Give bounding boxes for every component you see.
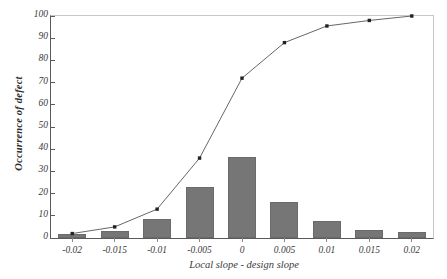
y-tick-mark — [51, 104, 55, 105]
x-tick-label: -0.015 — [102, 245, 127, 255]
x-tick-mark — [369, 238, 370, 242]
bar — [101, 231, 129, 238]
x-tick-mark — [284, 238, 285, 242]
curve-marker — [113, 225, 116, 228]
bar — [270, 202, 298, 238]
curve-marker — [325, 24, 328, 27]
x-tick-mark — [242, 238, 243, 242]
curve-marker — [368, 19, 371, 22]
x-axis-title: Local slope - design slope — [50, 259, 438, 270]
x-tick-mark — [326, 238, 327, 242]
x-tick-mark — [199, 238, 200, 242]
y-tick-mark — [51, 149, 55, 150]
y-tick-label: 80 — [39, 53, 49, 63]
x-tick-mark — [411, 238, 412, 242]
y-axis-title: Occurrence of defect — [13, 44, 24, 204]
curve-marker — [198, 156, 201, 159]
y-tick-mark — [51, 193, 55, 194]
x-tick-mark — [72, 238, 73, 242]
bar — [58, 234, 86, 238]
y-tick-label: 10 — [39, 209, 49, 219]
y-tick-label: 20 — [39, 187, 49, 197]
y-tick-mark — [51, 215, 55, 216]
x-tick-mark — [114, 238, 115, 242]
x-tick-mark — [157, 238, 158, 242]
bar — [186, 187, 214, 238]
curve-marker — [410, 14, 413, 17]
y-tick-label: 60 — [39, 98, 49, 108]
x-tick-label: 0.015 — [359, 245, 380, 255]
chart-figure: Occurrence of defect 0102030405060708090… — [0, 0, 447, 279]
x-tick-label: 0.01 — [319, 245, 336, 255]
y-tick-label: 90 — [39, 31, 49, 41]
curve-marker — [283, 41, 286, 44]
y-tick-mark — [51, 38, 55, 39]
y-tick-label: 50 — [39, 120, 49, 130]
y-tick-mark — [51, 16, 55, 17]
x-tick-label: 0.005 — [274, 245, 295, 255]
x-tick-label: -0.005 — [187, 245, 212, 255]
bar — [355, 230, 383, 238]
bar — [228, 157, 256, 238]
bar — [143, 219, 171, 238]
x-tick-label: 0 — [240, 245, 245, 255]
x-tick-label: -0.02 — [62, 245, 82, 255]
y-tick-label: 40 — [39, 142, 49, 152]
y-tick-mark — [51, 60, 55, 61]
curve-marker — [240, 76, 243, 79]
y-tick-label: 30 — [39, 164, 49, 174]
x-tick-label: 0.02 — [403, 245, 420, 255]
bar — [313, 221, 341, 238]
y-tick-mark — [51, 127, 55, 128]
y-tick-label: 70 — [39, 76, 49, 86]
y-tick-label: 100 — [34, 9, 48, 19]
y-tick-mark — [51, 238, 55, 239]
y-tick-mark — [51, 82, 55, 83]
x-tick-label: -0.01 — [147, 245, 167, 255]
bar — [398, 232, 426, 238]
y-tick-mark — [51, 171, 55, 172]
y-tick-label: 0 — [43, 231, 48, 241]
plot-area: 0102030405060708090100 -0.02-0.015-0.01-… — [50, 15, 434, 239]
curve-marker — [155, 207, 158, 210]
